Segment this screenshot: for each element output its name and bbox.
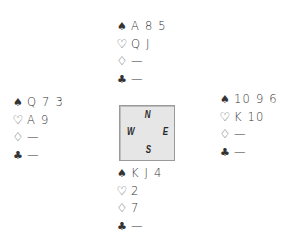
south-clubs: — [131,218,144,236]
north-spades: A 8 5 [131,18,167,36]
compass-box: N W E S [119,105,175,161]
heart-icon: ♡ [116,183,128,201]
north-diamonds: — [131,53,144,71]
club-icon: ♣ [12,147,24,165]
heart-icon: ♡ [116,36,128,54]
south-hearts: 2 [131,183,140,201]
west-hearts: A 9 [27,112,49,130]
club-icon: ♣ [116,218,128,236]
club-icon: ♣ [219,144,231,162]
east-spades: 10 9 6 [234,91,278,109]
compass-south-label: S [146,144,151,155]
west-clubs: — [27,147,40,165]
east-clubs: — [234,144,247,162]
diamond-icon: ♢ [116,200,128,218]
diamond-icon: ♢ [116,53,128,71]
club-icon: ♣ [116,71,128,89]
spade-icon: ♠ [219,91,231,109]
compass-west-label: W [127,126,135,137]
east-diamonds: — [234,126,247,144]
compass-east-label: E [163,126,168,137]
heart-icon: ♡ [12,112,24,130]
north-clubs: — [131,71,144,89]
diamond-icon: ♢ [219,126,231,144]
south-diamonds: 7 [131,200,140,218]
north-hearts: Q J [131,36,151,54]
spade-icon: ♠ [116,18,128,36]
diamond-icon: ♢ [12,129,24,147]
west-spades: Q 7 3 [27,94,64,112]
spade-icon: ♠ [12,94,24,112]
spade-icon: ♠ [116,165,128,183]
west-diamonds: — [27,129,40,147]
east-hearts: K 10 [234,109,265,127]
compass-north-label: N [145,109,151,120]
south-spades: K J 4 [131,165,163,183]
heart-icon: ♡ [219,109,231,127]
